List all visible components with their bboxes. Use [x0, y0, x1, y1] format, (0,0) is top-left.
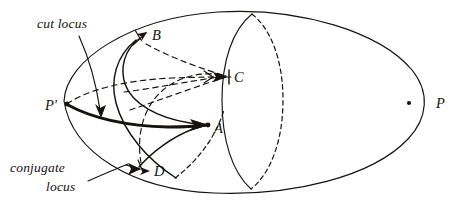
conjugate-locus-upper-branch — [123, 39, 207, 125]
geodesic-dashed-from-B-to-C — [146, 44, 226, 76]
figure-canvas: P P' A B C D cut locus conjugate locus — [0, 0, 471, 206]
arrowhead-at-D-left — [128, 163, 141, 175]
annotation-conjugate-locus-line2: locus — [46, 179, 76, 194]
point-dot-A — [206, 123, 211, 128]
central-cross-section-back — [251, 14, 283, 189]
label-P: P — [435, 95, 445, 111]
point-dot-P — [407, 101, 411, 105]
central-cross-section-front — [222, 14, 252, 189]
label-A: A — [213, 120, 223, 136]
label-B: B — [152, 27, 161, 43]
geodesic-dashed-lower-to-C — [130, 77, 226, 110]
geodesic-dashed-from-D-to-C — [140, 74, 226, 163]
conjugate-locus-outer-arc — [114, 40, 176, 178]
label-P-prime: P' — [44, 97, 58, 113]
conjugate-locus-lower-branch — [139, 125, 207, 167]
annotation-cut-locus: cut locus — [37, 16, 87, 31]
annotation-conjugate-locus-line1: conjugate — [10, 160, 65, 175]
label-C: C — [234, 69, 244, 85]
ellipsoid-cut-locus-figure: P P' A B C D cut locus conjugate locus — [0, 0, 471, 206]
cut-locus-curve — [68, 105, 206, 127]
leader-line-cut-locus — [79, 36, 100, 110]
ellipsoid-outline — [64, 11, 424, 193]
leader-line-conjugate-locus — [88, 164, 128, 181]
label-D: D — [153, 163, 165, 179]
point-dot-P-prime — [65, 102, 70, 107]
